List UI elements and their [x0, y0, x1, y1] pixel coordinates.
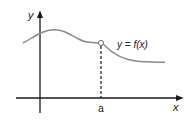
open-circle-marker — [98, 40, 103, 45]
point-a-label: a — [98, 102, 104, 114]
function-graph: y x a y = f(x) — [0, 0, 190, 125]
function-curve — [23, 30, 98, 43]
y-axis-label: y — [27, 9, 35, 21]
curve-label: y = f(x) — [116, 39, 148, 50]
x-axis-label: x — [172, 101, 179, 113]
